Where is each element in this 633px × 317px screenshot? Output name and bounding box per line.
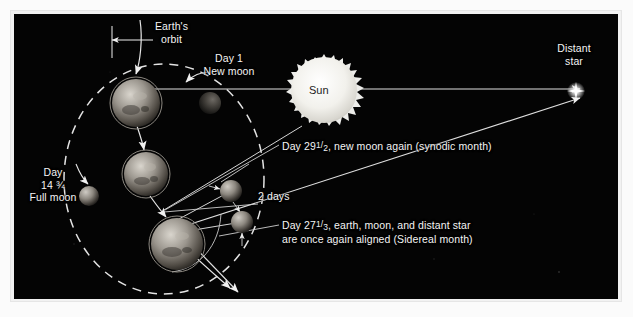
sightline-sidereal-to-star [166, 98, 580, 232]
earth-middle [122, 150, 170, 198]
earth-bottom [149, 216, 205, 272]
sidereal-line-2: are once again aligned (Sidereal month) [282, 233, 473, 246]
sidereal-month-label: Day 271/3, earth, moon, and distant star… [282, 218, 473, 246]
sun-label: Sun [309, 84, 329, 96]
synodic-rest: , new moon again (synodic month) [328, 140, 492, 152]
full-moon-label-line1: Day [20, 166, 86, 179]
full-moon-label-line3: Full moon [20, 191, 86, 204]
earth-top [110, 77, 162, 129]
earth-path-arrow-1 [136, 20, 141, 74]
distant-star-label: Distant star [541, 42, 607, 67]
earths-orbit-label: Earth's orbit [155, 20, 188, 45]
sidereal-line-1: Day 271/3, earth, moon, and distant star [282, 218, 473, 233]
synodic-prefix: Day 29 [282, 140, 316, 152]
moon-sidereal [220, 180, 242, 202]
full-moon-label-line2: 14 ¾ [20, 179, 86, 192]
earth-path-arrow-3 [150, 196, 166, 217]
distant-star-label-line2: star [541, 55, 607, 68]
moon-new [199, 92, 221, 114]
day1-new-moon-label: Day 1 New moon [190, 52, 268, 77]
full-moon-label: Day 14 ¾ Full moon [20, 166, 86, 204]
figure-root: Earth's orbit Day 1 New moon Sun Distant… [0, 0, 633, 317]
sidereal-rest: , earth, moon, and distant star [328, 219, 471, 231]
sidereal-prefix: Day 27 [282, 219, 316, 231]
diagram-canvas [14, 14, 618, 299]
synodic-month-label: Day 291/2, new moon again (synodic month… [282, 139, 492, 154]
distant-star-label-line1: Distant [541, 42, 607, 55]
full-moon-fraction: ¾ [56, 179, 65, 191]
moon-synodic [231, 211, 253, 233]
earths-orbit-label-line2: orbit [155, 33, 188, 46]
sky-panel: Earth's orbit Day 1 New moon Sun Distant… [14, 14, 618, 299]
distant-star [567, 82, 585, 100]
earth-path-arrow-2 [137, 126, 144, 150]
connector-moon-sidereal-arrow [209, 186, 220, 189]
full-moon-day-number: 14 [41, 179, 53, 191]
two-days-label: 2 days [258, 190, 290, 203]
day1-label-line1: Day 1 [190, 52, 268, 65]
earths-orbit-label-line1: Earth's [155, 20, 188, 33]
two-days-leader [164, 204, 258, 212]
day1-label-line2: New moon [190, 65, 268, 78]
